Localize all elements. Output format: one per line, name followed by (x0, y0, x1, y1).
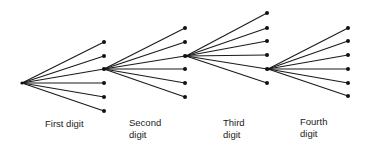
branch-line (186, 55, 267, 56)
branch-origin-node (102, 67, 105, 70)
leaf-node (265, 53, 269, 57)
branch-line (22, 83, 104, 97)
branch-origin-node (184, 54, 187, 57)
leaf-node (265, 39, 269, 43)
branch-line (186, 41, 267, 56)
leaf-node (102, 40, 106, 44)
branch-line (104, 69, 185, 83)
branch-line (268, 55, 348, 69)
leaf-node (102, 54, 106, 58)
branch-line (104, 42, 185, 69)
leaf-node (265, 26, 269, 30)
branch-line (22, 69, 104, 83)
branch-line (186, 56, 267, 69)
leaf-node (183, 95, 187, 99)
label-third-digit: Third digit (223, 117, 245, 141)
leaf-node (183, 67, 187, 71)
leaf-node (102, 81, 106, 85)
leaf-node (346, 26, 350, 30)
branch-line (268, 41, 348, 69)
branch-origin-node (266, 67, 269, 70)
leaf-node (346, 39, 350, 43)
label-second-digit: Second digit (129, 117, 161, 141)
leaf-node (346, 81, 350, 85)
branch-line (268, 69, 348, 83)
branch-line (186, 56, 267, 83)
label-first-digit: First digit (45, 118, 84, 130)
leaf-node (346, 53, 350, 57)
tree-nodes (20, 11, 350, 113)
leaf-node (265, 11, 269, 15)
branch-line (104, 69, 185, 97)
leaf-node (346, 67, 350, 71)
branch-line (22, 42, 104, 83)
branch-line (186, 13, 267, 56)
leaf-node (102, 109, 106, 113)
leaf-node (183, 40, 187, 44)
label-fourth-digit: Fourth digit (300, 116, 327, 140)
branch-origin-node (20, 81, 23, 84)
branch-line (186, 28, 267, 56)
leaf-node (183, 26, 187, 30)
branch-line (268, 28, 348, 69)
leaf-node (265, 81, 269, 85)
branch-line (22, 83, 104, 111)
leaf-node (102, 95, 106, 99)
leaf-node (183, 81, 187, 85)
leaf-node (346, 94, 350, 98)
branch-line (268, 69, 348, 96)
branch-line (22, 56, 104, 83)
